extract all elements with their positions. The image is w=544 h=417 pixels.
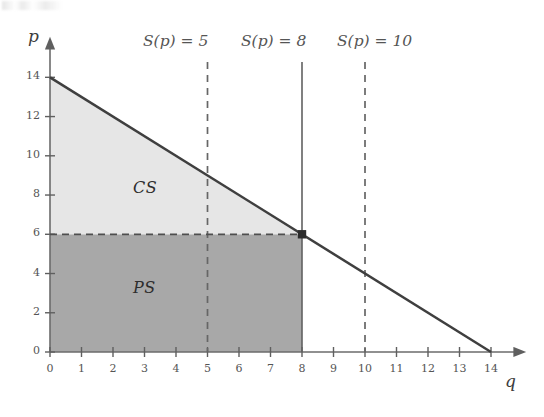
scan-artifact (2, 1, 62, 10)
producer-surplus-region (50, 234, 302, 352)
x-tick-label: 10 (355, 362, 375, 375)
x-tick-label: 12 (418, 362, 438, 375)
x-tick-label: 6 (229, 362, 249, 375)
y-tick-label: 4 (18, 266, 40, 279)
x-tick-label: 4 (166, 362, 186, 375)
y-tick-label: 6 (18, 226, 40, 239)
y-tick-label: 8 (18, 187, 40, 200)
x-tick-label: 8 (292, 362, 312, 375)
x-tick-label: 1 (72, 362, 92, 375)
x-tick-label: 0 (40, 362, 60, 375)
x-tick-label: 9 (324, 362, 344, 375)
x-tick-label: 3 (135, 362, 155, 375)
x-tick-label: 7 (261, 362, 281, 375)
x-tick-label: 14 (481, 362, 501, 375)
x-axis-label: q (505, 371, 516, 391)
equilibrium-point-marker (298, 230, 306, 238)
x-tick-label: 13 (450, 362, 470, 375)
surplus-chart-figure: p q S(p) = 5 S(p) = 8 S(p) = 10 CS PS 01… (0, 0, 544, 417)
producer-surplus-label: PS (133, 278, 156, 297)
y-tick-label: 14 (18, 69, 40, 82)
chart-plot-area (0, 0, 544, 417)
supply-label-8: S(p) = 8 (241, 32, 306, 50)
x-tick-label: 2 (103, 362, 123, 375)
supply-label-5: S(p) = 5 (143, 32, 208, 50)
consumer-surplus-label: CS (133, 178, 157, 197)
x-tick-label: 11 (387, 362, 407, 375)
x-tick-label: 5 (198, 362, 218, 375)
y-tick-label: 10 (18, 148, 40, 161)
y-tick-label: 2 (18, 305, 40, 318)
y-axis-label: p (28, 26, 39, 46)
y-tick-label: 0 (18, 344, 40, 357)
supply-label-10: S(p) = 10 (337, 32, 412, 50)
y-tick-label: 12 (18, 109, 40, 122)
